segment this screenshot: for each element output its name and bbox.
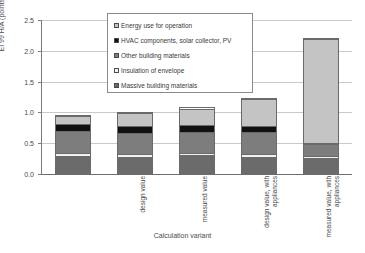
legend-item: Insulation of envelope	[114, 63, 248, 78]
y-axis-tick-labels: 2.5 2.0 1.5 1.0 0.5 0.0	[0, 20, 38, 174]
x-tick-label: design value	[139, 176, 147, 240]
bar-chart: EI 99 H/A (points/m²a) 2.5 2.0 1.5 1.0 0…	[0, 0, 365, 253]
x-axis-line	[42, 174, 352, 175]
bar-segment	[56, 124, 90, 131]
x-axis-title: Calculation variant	[0, 232, 365, 239]
bar-segment	[118, 126, 152, 133]
bar-segment	[180, 132, 214, 152]
y-tick-label: 0.5	[0, 140, 34, 147]
bar-segment	[118, 157, 152, 173]
bar-segment	[242, 132, 276, 154]
bar-4	[241, 98, 277, 174]
y-tick-label: 1.0	[0, 109, 34, 116]
legend-label: Insulation of envelope	[121, 67, 184, 74]
legend-item: HVAC components, solar collector, PV	[114, 33, 248, 48]
legend-item: Other building materials	[114, 48, 248, 63]
y-tick-label: 1.5	[0, 79, 34, 86]
x-axis-tick-labels: design valuemeasured valuedesign value, …	[41, 176, 351, 236]
y-tick-mark	[38, 174, 42, 175]
legend-label: Other building materials	[121, 52, 190, 59]
legend-item: Massive building materials	[114, 78, 248, 93]
bar-segment	[118, 133, 152, 154]
x-tick-label: design value, with appliances	[263, 176, 279, 240]
bar-segment	[304, 144, 338, 156]
bar-5	[303, 38, 339, 174]
legend-label: Massive building materials	[121, 82, 197, 89]
bar-segment	[56, 131, 90, 153]
bar-segment	[56, 116, 90, 124]
bar-segment	[118, 113, 152, 126]
bar-segment	[180, 109, 214, 126]
legend-swatch-icon	[114, 53, 119, 58]
legend-swatch-icon	[114, 38, 119, 43]
legend-swatch-icon	[114, 23, 119, 28]
bar-segment	[180, 155, 214, 173]
bar-segment	[242, 99, 276, 126]
bar-1	[55, 115, 91, 174]
bar-2	[117, 112, 153, 174]
bar-segment	[242, 157, 276, 173]
legend-label: Energy use for operation	[121, 22, 192, 29]
bar-segment	[304, 158, 338, 173]
legend-label: HVAC components, solar collector, PV	[121, 37, 231, 44]
bar-3	[179, 107, 215, 174]
legend: Energy use for operationHVAC components,…	[107, 13, 253, 93]
x-tick-label: measured value, with appliances	[325, 176, 341, 240]
y-tick-label: 2.5	[0, 17, 34, 24]
bar-segment	[304, 39, 338, 142]
y-tick-label: 0.0	[0, 171, 34, 178]
legend-swatch-icon	[114, 83, 119, 88]
x-tick-label: measured value	[201, 176, 209, 240]
bar-segment	[180, 125, 214, 132]
legend-item: Energy use for operation	[114, 18, 248, 33]
bar-segment	[242, 126, 276, 133]
legend-swatch-icon	[114, 68, 119, 73]
bar-segment	[56, 156, 90, 173]
y-tick-label: 2.0	[0, 48, 34, 55]
